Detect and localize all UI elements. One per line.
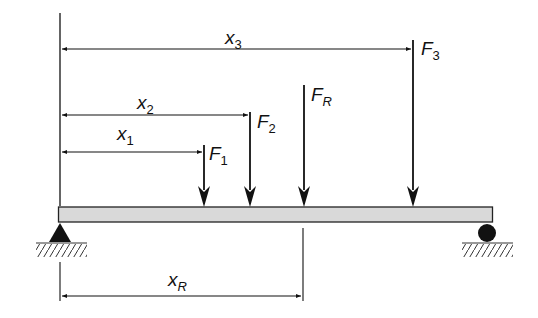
dimension-x3: x3 — [62, 27, 411, 52]
beam — [59, 207, 493, 222]
dimension-x2: x2 — [62, 92, 248, 117]
dimension-label-xR: xR — [167, 269, 187, 294]
force-label-F1: F1 — [209, 143, 228, 168]
ground-hatch-icon — [36, 244, 87, 257]
dimension-xR: xR — [60, 228, 303, 301]
force-F1: F1 — [198, 143, 228, 207]
dimension-x1: x1 — [62, 123, 202, 152]
dimension-label-x2: x2 — [136, 92, 154, 117]
roller-circle-icon — [478, 224, 496, 242]
force-F3: F3 — [407, 38, 440, 207]
beam-diagram: x3 x2 x1 F1 F2 FR F3 — [0, 0, 538, 318]
force-label-F3: F3 — [421, 38, 440, 63]
force-label-FR: FR — [311, 84, 332, 109]
ground-hatch-icon — [462, 244, 513, 257]
roller-support — [462, 224, 513, 257]
dimension-label-x1: x1 — [116, 123, 134, 148]
force-label-F2: F2 — [257, 111, 276, 136]
dimension-label-x3: x3 — [224, 27, 242, 52]
force-FR: FR — [298, 84, 332, 207]
pin-support — [36, 223, 87, 257]
pin-triangle-icon — [49, 223, 71, 242]
force-F2: F2 — [244, 111, 276, 207]
